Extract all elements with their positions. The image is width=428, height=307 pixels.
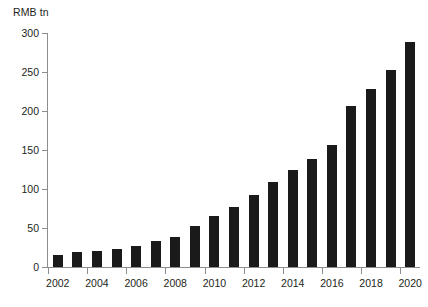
plot-area: 050100150200250300 200220042006200820102… — [0, 0, 428, 307]
x-axis-tick — [361, 268, 362, 274]
bar — [131, 246, 141, 267]
y-axis-tick-label: 250 — [21, 67, 39, 78]
y-axis-tick — [42, 111, 48, 112]
x-axis-tick — [165, 268, 166, 274]
x-axis-tick — [126, 268, 127, 274]
x-axis-tick-label: 2006 — [124, 278, 147, 289]
bar — [151, 241, 161, 267]
x-axis-tick-label: 2014 — [281, 278, 304, 289]
bar — [170, 237, 180, 267]
bar — [366, 89, 376, 267]
bar — [288, 170, 298, 267]
x-axis-tick-label: 2010 — [203, 278, 226, 289]
bar-chart: RMB tn 050100150200250300 20022004200620… — [0, 0, 428, 307]
y-axis-tick — [42, 150, 48, 151]
x-axis-tick-label: 2012 — [242, 278, 265, 289]
y-axis-tick — [42, 228, 48, 229]
x-axis-tick-label: 2016 — [320, 278, 343, 289]
x-axis-tick-label: 2020 — [399, 278, 422, 289]
bar — [229, 207, 239, 267]
x-axis-line — [47, 267, 420, 268]
y-axis-tick-label: 150 — [21, 145, 39, 156]
y-axis-tick — [42, 33, 48, 34]
bar — [405, 42, 415, 267]
y-axis-tick-label: 100 — [21, 184, 39, 195]
x-axis-tick — [322, 268, 323, 274]
x-axis-tick — [283, 268, 284, 274]
bar — [386, 70, 396, 267]
bar — [209, 216, 219, 267]
bar — [53, 255, 63, 267]
x-axis-tick-label: 2002 — [46, 278, 69, 289]
y-axis-tick-label: 0 — [33, 262, 39, 273]
y-axis-tick-label: 300 — [21, 28, 39, 39]
x-axis-tick-label: 2004 — [85, 278, 108, 289]
bar — [72, 252, 82, 267]
bar — [346, 106, 356, 267]
bar — [92, 251, 102, 267]
y-axis-tick-label: 50 — [27, 223, 39, 234]
x-axis-tick — [48, 268, 49, 274]
x-axis-tick — [205, 268, 206, 274]
bar — [190, 226, 200, 267]
x-axis-tick — [400, 268, 401, 274]
y-axis-tick-label: 200 — [21, 106, 39, 117]
x-axis-tick-label: 2018 — [359, 278, 382, 289]
x-axis-tick — [87, 268, 88, 274]
y-axis-tick — [42, 72, 48, 73]
bar — [249, 195, 259, 267]
x-axis-tick — [244, 268, 245, 274]
bar — [327, 145, 337, 267]
bar — [307, 159, 317, 267]
y-axis-tick — [42, 189, 48, 190]
bar — [268, 182, 278, 267]
bar — [112, 249, 122, 267]
x-axis-tick-label: 2008 — [164, 278, 187, 289]
